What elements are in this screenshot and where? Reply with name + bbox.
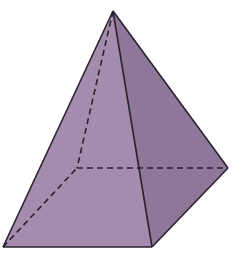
- pyramid-svg: [0, 0, 241, 266]
- pyramid-diagram: [0, 0, 241, 266]
